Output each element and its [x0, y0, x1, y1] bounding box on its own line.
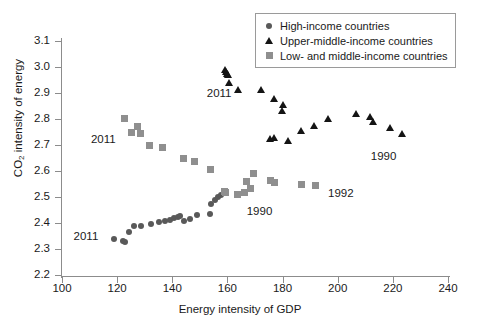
y-tick-mark: [55, 223, 61, 224]
data-point: [207, 211, 213, 217]
data-point: [225, 79, 233, 86]
data-point: [194, 212, 200, 218]
y-tick-label: 2.6: [22, 165, 50, 176]
x-tick-label: 160: [207, 283, 247, 294]
y-tick-mark: [55, 145, 61, 146]
data-point: [369, 118, 377, 125]
data-point: [352, 110, 360, 117]
data-point: [148, 221, 154, 227]
y-tick-label: 2.9: [22, 87, 50, 98]
legend-item-high-income: High-income countries: [262, 18, 448, 33]
y-tick-mark: [55, 67, 61, 68]
data-point: [122, 239, 128, 245]
square-marker-icon: [262, 52, 276, 59]
y-tick-label: 3.0: [22, 61, 50, 72]
data-point: [134, 123, 141, 130]
y-tick-label: 2.2: [22, 269, 50, 280]
x-tick-label: 120: [97, 283, 137, 294]
plot-area: 201120112011199019921990: [62, 41, 448, 275]
legend-item-low-and-middle-income: Low- and middle-income countries: [262, 48, 448, 63]
scatter-chart-figure: 2.22.32.42.52.62.72.82.93.03.1 100120140…: [0, 0, 480, 330]
data-point: [278, 107, 286, 114]
x-axis-line: [61, 276, 450, 277]
plot-annotation-low-middle-income-end: 1992: [328, 187, 354, 199]
legend-item-label: High-income countries: [280, 20, 389, 32]
data-point: [187, 216, 193, 222]
data-point: [312, 182, 319, 189]
data-point: [270, 95, 278, 102]
data-point: [138, 223, 144, 229]
y-tick-mark: [55, 93, 61, 94]
triangle-marker-icon: [262, 37, 276, 44]
data-point: [128, 129, 135, 136]
y-tick-mark: [55, 275, 61, 276]
data-point: [398, 130, 406, 137]
y-tick-mark: [55, 197, 61, 198]
y-tick-label: 3.1: [22, 35, 50, 46]
y-tick-label: 2.7: [22, 139, 50, 150]
y-tick-mark: [55, 171, 61, 172]
data-point: [324, 115, 332, 122]
data-point: [137, 130, 144, 137]
plot-annotation-high-income-end: 1990: [247, 205, 273, 217]
x-axis-title: Energy intensity of GDP: [0, 303, 480, 315]
data-point: [159, 144, 166, 151]
x-tick-label: 100: [42, 283, 82, 294]
plot-annotation-upper-middle-income-end: 1990: [371, 150, 397, 162]
data-point: [297, 127, 305, 134]
chart-legend: High-income countries Upper-middle-incom…: [255, 13, 456, 68]
x-tick-label: 200: [318, 283, 358, 294]
data-point: [156, 219, 162, 225]
y-tick-label: 2.8: [22, 113, 50, 124]
data-point: [298, 181, 305, 188]
data-point: [131, 223, 137, 229]
legend-item-label: Low- and middle-income countries: [280, 50, 448, 62]
y-tick-label: 2.4: [22, 217, 50, 228]
data-point: [271, 179, 278, 186]
y-tick-mark: [55, 41, 61, 42]
data-point: [180, 155, 187, 162]
data-point: [386, 124, 394, 131]
y-tick-label: 2.3: [22, 243, 50, 254]
data-point: [222, 189, 229, 196]
y-axis-title: CO2 intensity of energy: [12, 23, 24, 213]
data-point: [257, 86, 265, 93]
plot-annotation-high-income-start: 2011: [74, 230, 99, 242]
x-tick-label: 140: [152, 283, 192, 294]
x-tick-label: 220: [373, 283, 413, 294]
plot-annotation-upper-middle-income-start: 2011: [207, 87, 232, 99]
data-point: [310, 122, 318, 129]
data-point: [250, 170, 257, 177]
plot-annotation-low-middle-income-start: 2011: [91, 133, 116, 145]
data-point: [234, 191, 241, 198]
circle-marker-icon: [262, 23, 276, 29]
y-tick-label: 2.5: [22, 191, 50, 202]
data-point: [284, 137, 292, 144]
data-point: [146, 142, 153, 149]
data-point: [121, 115, 128, 122]
y-axis-title-text: CO2 intensity of energy: [12, 59, 24, 177]
data-point: [207, 166, 214, 173]
data-point: [247, 185, 254, 192]
y-tick-mark: [55, 249, 61, 250]
data-point: [111, 236, 117, 242]
data-point: [191, 158, 198, 165]
x-tick-label: 240: [428, 283, 468, 294]
data-point: [270, 134, 278, 141]
legend-item-label: Upper-middle-income countries: [280, 35, 433, 47]
legend-item-upper-middle-income: Upper-middle-income countries: [262, 33, 448, 48]
y-tick-mark: [55, 119, 61, 120]
data-point: [126, 229, 132, 235]
data-point: [234, 86, 242, 93]
data-point: [224, 71, 232, 78]
x-tick-label: 180: [263, 283, 303, 294]
